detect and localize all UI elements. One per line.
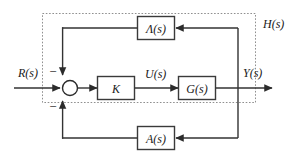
block-label-sensor-a: A(s) bbox=[145, 132, 166, 146]
block-diagram-canvas: R(s) U(s) Y(s) H(s) Λ(s) K G(s) A(s) − − bbox=[0, 0, 294, 166]
block-label-gain-k: K bbox=[111, 82, 121, 96]
block-diagram-svg: R(s) U(s) Y(s) H(s) Λ(s) K G(s) A(s) − − bbox=[0, 0, 294, 166]
block-label-lambda: Λ(s) bbox=[145, 22, 166, 36]
sign-minus-bottom: − bbox=[49, 99, 56, 114]
label-output-ys: Y(s) bbox=[243, 66, 262, 80]
summing-junction bbox=[63, 81, 78, 96]
label-boundary-hs: H(s) bbox=[262, 17, 284, 31]
block-label-plant-g: G(s) bbox=[186, 82, 207, 96]
sign-minus-top: − bbox=[49, 64, 56, 79]
label-intermediate-us: U(s) bbox=[145, 67, 166, 81]
label-input-rs: R(s) bbox=[17, 66, 38, 80]
